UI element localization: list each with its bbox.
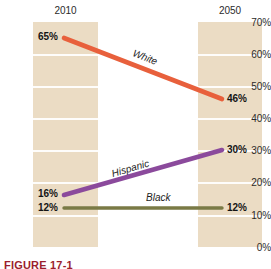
plot-area: 2010 2050 70% 60% 50% 40% 30% 20% 10% 0%… [0,0,271,269]
figure-caption: FIGURE 17-1 [4,259,73,269]
series-line-hispanic [64,150,222,195]
point-label-black-2010: 12% [38,203,58,213]
point-label-black-2050: 12% [227,203,247,213]
series-line-white [64,38,222,99]
point-label-white-2050: 46% [227,94,247,104]
series-label-black: Black [146,193,170,203]
figure-container: 2010 2050 70% 60% 50% 40% 30% 20% 10% 0%… [0,0,271,269]
point-label-hispanic-2010: 16% [38,189,58,199]
point-label-white-2010: 65% [38,32,58,42]
point-label-hispanic-2050: 30% [227,145,247,155]
